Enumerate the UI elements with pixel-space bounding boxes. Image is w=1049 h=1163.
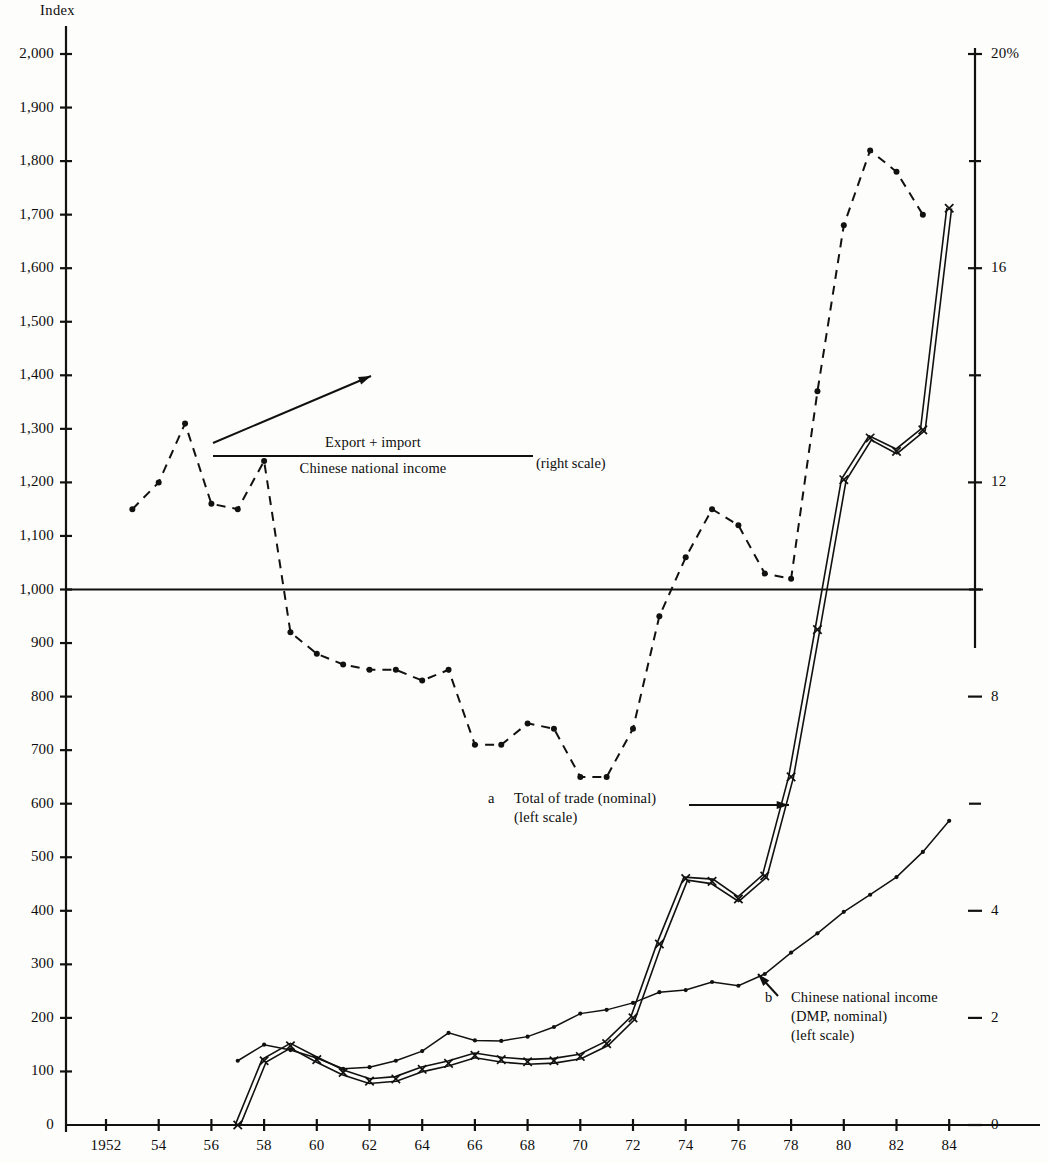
- left-axis-tick-300: 300: [0, 955, 54, 972]
- ratio-numerator-label: Export + import: [213, 432, 533, 453]
- ratio-series-point: [340, 661, 346, 667]
- ratio-series-point: [577, 774, 583, 780]
- left-axis-tick-1900: 1,900: [0, 99, 54, 116]
- right-axis-tick-4: 4: [991, 902, 999, 919]
- ratio-series-point: [841, 222, 847, 228]
- ratio-series-point: [314, 651, 320, 657]
- series-b-point: [526, 1035, 530, 1039]
- left-axis-tick-1800: 1,800: [0, 152, 54, 169]
- right-axis-tick-2: 2: [991, 1009, 999, 1026]
- x-axis-tick-84: 84: [909, 1137, 989, 1154]
- left-axis-tick-800: 800: [0, 688, 54, 705]
- ratio-series-point: [683, 554, 689, 560]
- ratio-series-point: [867, 147, 873, 153]
- series-b-point: [736, 984, 740, 988]
- series-b-index-label: b: [765, 988, 791, 1007]
- left-axis-tick-1600: 1,600: [0, 259, 54, 276]
- series-b-point: [921, 850, 925, 854]
- series-b-point: [552, 1025, 556, 1029]
- ratio-series-point: [498, 742, 504, 748]
- ratio-series-point: [525, 720, 531, 726]
- series-b-line1-label: Chinese national income: [791, 989, 938, 1005]
- ratio-series-point: [814, 388, 820, 394]
- series-a-legend: aTotal of trade (nominal) (left scale): [488, 789, 656, 827]
- ratio-series-point: [393, 667, 399, 673]
- ratio-series-point: [235, 506, 241, 512]
- ratio-series-point: [920, 212, 926, 218]
- left-axis-tick-600: 600: [0, 795, 54, 812]
- left-axis-tick-2000: 2,000: [0, 45, 54, 62]
- ratio-series-point: [762, 570, 768, 576]
- series-b-point: [789, 950, 793, 954]
- series-b-point: [578, 1012, 582, 1016]
- right-axis-tick-16: 16: [991, 259, 1006, 276]
- series-b-point: [815, 931, 819, 935]
- ratio-series-point: [287, 629, 293, 635]
- left-axis-title: Index: [40, 2, 75, 19]
- series-b-legend: bChinese national income (DMP, nominal) …: [765, 988, 938, 1045]
- right-axis-tick-12: 12: [991, 473, 1006, 490]
- left-axis-tick-900: 900: [0, 634, 54, 651]
- ratio-series-point: [367, 667, 373, 673]
- series-b-point: [763, 972, 767, 976]
- ratio-series-point: [604, 774, 610, 780]
- series-b-point: [446, 1031, 450, 1035]
- series-b-point: [605, 1008, 609, 1012]
- chart-canvas: Index 01002003004005006007008009001,0001…: [0, 0, 1049, 1163]
- right-axis-tick-20: 20%: [991, 45, 1019, 62]
- ratio-series-point: [129, 506, 135, 512]
- right-axis-tick-0: 0: [991, 1116, 999, 1133]
- ratio-series-point: [894, 169, 900, 175]
- left-axis-tick-1200: 1,200: [0, 473, 54, 490]
- series-b-point: [499, 1039, 503, 1043]
- series-b-point: [367, 1065, 371, 1069]
- ratio-series-point: [472, 742, 478, 748]
- ratio-series-point: [709, 506, 715, 512]
- left-axis-tick-400: 400: [0, 902, 54, 919]
- right-axis-tick-8: 8: [991, 688, 999, 705]
- ratio-series-point: [788, 576, 794, 582]
- ratio-fraction-bar: [213, 455, 533, 457]
- left-axis-tick-1100: 1,100: [0, 527, 54, 544]
- left-axis-tick-1500: 1,500: [0, 313, 54, 330]
- ratio-series-point: [446, 667, 452, 673]
- left-axis-tick-1000: 1,000: [0, 581, 54, 598]
- ratio-scale-note: (right scale): [536, 455, 606, 472]
- series-b-point: [868, 893, 872, 897]
- ratio-series-point: [419, 678, 425, 684]
- series-b-point: [473, 1038, 477, 1042]
- left-axis-tick-100: 100: [0, 1062, 54, 1079]
- ratio-series-point: [630, 726, 636, 732]
- series-b-point: [947, 819, 951, 823]
- series-a-legend-arrow: [689, 801, 789, 809]
- ratio-denominator-label: Chinese national income: [213, 458, 533, 479]
- series-b-point: [657, 990, 661, 994]
- ratio-series-point: [551, 726, 557, 732]
- ratio-series-point: [182, 420, 188, 426]
- axes-group: [60, 26, 1040, 1132]
- ratio-series-point: [656, 613, 662, 619]
- left-axis-tick-200: 200: [0, 1009, 54, 1026]
- left-axis-tick-1400: 1,400: [0, 366, 54, 383]
- series-group: [129, 147, 953, 1129]
- left-axis-tick-1700: 1,700: [0, 206, 54, 223]
- series-a-index-label: a: [488, 789, 514, 808]
- series-b-point: [684, 988, 688, 992]
- ratio-series-point: [208, 501, 214, 507]
- left-axis-tick-1300: 1,300: [0, 420, 54, 437]
- series-b-line2-label: (DMP, nominal): [791, 1008, 887, 1024]
- series-b-point: [842, 910, 846, 914]
- ratio-legend: Export + import Chinese national income: [213, 432, 533, 479]
- series-b-line3-label: (left scale): [791, 1027, 854, 1043]
- series-a-line2-label: (left scale): [514, 809, 577, 825]
- series-b-point: [394, 1059, 398, 1063]
- series-b-point: [262, 1043, 266, 1047]
- series-b-point: [236, 1059, 240, 1063]
- series-b-point: [894, 875, 898, 879]
- series-a-line1-label: Total of trade (nominal): [514, 790, 656, 806]
- series-b-point: [710, 980, 714, 984]
- ratio-series-point: [735, 522, 741, 528]
- left-axis-tick-700: 700: [0, 741, 54, 758]
- left-axis-tick-0: 0: [0, 1116, 54, 1133]
- series-b-point: [420, 1049, 424, 1053]
